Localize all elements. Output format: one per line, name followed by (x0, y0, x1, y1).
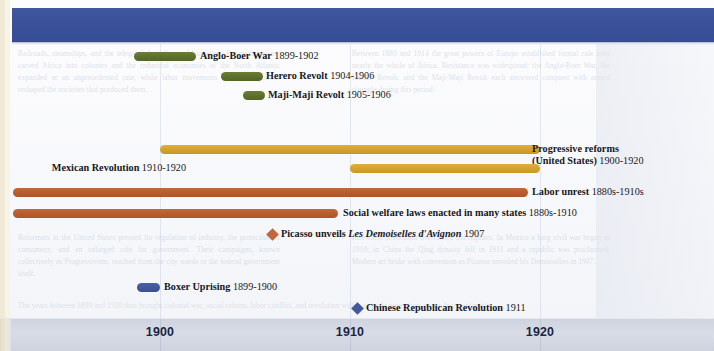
timeline-bar-boxer-uprising[interactable] (137, 283, 160, 292)
axis-tick-1900: 1900 (146, 325, 174, 339)
timeline-bar-mexican-revolution[interactable] (350, 164, 540, 173)
timeline-bar-herero-revolt[interactable] (221, 72, 263, 81)
axis-tick-1920: 1920 (526, 325, 554, 339)
timeline-bar-maji-maji-revolt[interactable] (243, 91, 265, 100)
timeline-label-herero-revolt: Herero Revolt 1904-1906 (266, 70, 374, 82)
page-edge-strip (0, 319, 11, 351)
timeline-label-boxer-uprising: Boxer Uprising 1899-1900 (164, 281, 277, 293)
timeline-diamond-chinese-republican-revolution[interactable] (351, 302, 364, 315)
header-band (12, 8, 714, 43)
timeline-bar-progressive-reforms[interactable] (160, 145, 540, 154)
timeline-label-picasso-unveils: Picasso unveils Les Demoiselles d'Avigno… (281, 228, 484, 240)
timeline-label-maji-maji-revolt: Maji-Maji Revolt 1905-1906 (268, 89, 391, 101)
timeline-label-mexican-revolution: Mexican Revolution 1910-1920 (26, 162, 186, 174)
timeline-axis-band: 1900 1910 1920 (0, 318, 714, 351)
timeline-diamond-picasso-unveils[interactable] (266, 228, 279, 241)
timeline-label-social-welfare-laws-enacted-in-many-states: Social welfare laws enacted in many stat… (343, 207, 577, 219)
timeline-plot-area: Anglo-Boer War 1899-1902Herero Revolt 19… (0, 44, 714, 318)
timeline-gridline (160, 44, 161, 318)
timeline-figure: Railroads, steamships, and the telegraph… (0, 0, 714, 351)
timeline-label-chinese-republican-revolution: Chinese Republican Revolution 1911 (366, 302, 526, 314)
timeline-label-labor-unrest: Labor unrest 1880s-1910s (532, 186, 644, 198)
timeline-bar-social-welfare-laws-enacted-in-many-states[interactable] (13, 209, 338, 218)
timeline-gridline (540, 44, 541, 318)
timeline-label-anglo-boer-war: Anglo-Boer War 1899-1902 (200, 50, 319, 62)
timeline-gridline (350, 44, 351, 318)
timeline-bar-labor-unrest[interactable] (13, 188, 528, 197)
axis-tick-1910: 1910 (336, 325, 364, 339)
timeline-bar-anglo-boer-war[interactable] (134, 52, 196, 61)
timeline-label-progressive-reforms: Progressive reforms(United States) 1900-… (532, 143, 707, 168)
